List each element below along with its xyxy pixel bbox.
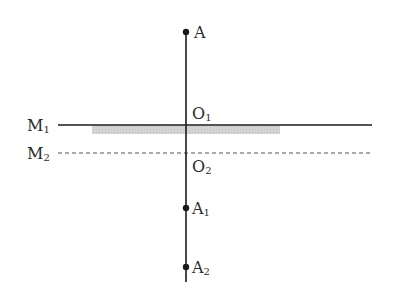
label-a: A — [193, 23, 206, 42]
point-a-dot — [183, 29, 189, 35]
label-m2: M2 — [27, 144, 50, 163]
label-a2: A2 — [191, 258, 210, 277]
label-o2: O2 — [192, 157, 212, 176]
label-m1: M1 — [27, 116, 50, 135]
label-a1: A1 — [191, 199, 210, 218]
label-o1: O1 — [192, 104, 212, 123]
point-a1-dot — [183, 205, 189, 211]
mirror-diagram: M1 M2 A O1 O2 A1 A2 — [0, 0, 393, 300]
point-a2-dot — [183, 264, 189, 270]
